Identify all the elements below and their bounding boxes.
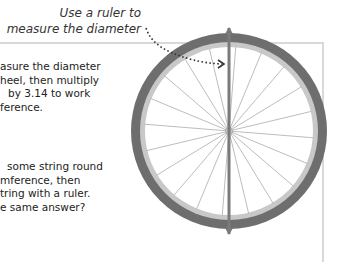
callout-line-1: Use a ruler to (7, 5, 141, 21)
instruction-paragraph-1: asure the diameter heel, then multiply b… (0, 60, 120, 114)
para1-line: heel, then multiply (0, 74, 120, 88)
callout-line-2: measure the diameter (7, 21, 141, 37)
para1-line: ference. (0, 101, 120, 115)
arrow-up-icon (225, 27, 233, 34)
arrow-down-icon (225, 228, 233, 235)
ruler-callout: Use a ruler to measure the diameter (7, 5, 141, 37)
instruction-paragraph-2: some string round mference, then tring w… (0, 160, 120, 214)
para2-line: some string round (0, 160, 120, 174)
bicycle-wheel (131, 27, 327, 235)
para2-line: mference, then (0, 174, 120, 188)
para1-line: by 3.14 to work (0, 87, 120, 101)
para2-line: e same answer? (0, 201, 120, 215)
para2-line: tring with a ruler. (0, 187, 120, 201)
para1-line: asure the diameter (0, 60, 120, 74)
